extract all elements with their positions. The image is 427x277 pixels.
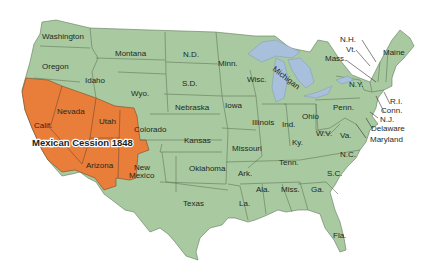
label-texas: Texas [183,199,204,208]
label-vt: Vt. [346,45,356,54]
label-nevada: Nevada [57,107,85,116]
label-ala: Ala. [256,185,270,194]
label-utah: Utah [99,117,116,126]
label-wyo: Wyo. [131,89,149,98]
label-sc: S.C. [327,169,343,178]
label-nd: N.D. [183,50,199,59]
label-nj: N.J. [380,115,394,124]
label-ind: Ind. [282,120,295,129]
label-conn: Conn. [381,106,402,115]
label-maryland: Maryland [370,135,403,144]
label-fla: Fla. [333,231,346,240]
label-wv: W.V. [316,129,332,138]
label-nebraska: Nebraska [175,103,210,112]
label-iowa: Iowa [225,101,242,110]
label-missouri: Missouri [232,144,262,153]
label-idaho: Idaho [85,76,106,85]
label-ohio: Ohio [302,112,319,121]
label-ny: N.Y. [349,80,364,89]
label-maine: Maine [383,48,405,57]
label-kansas: Kansas [184,136,211,145]
label-nc: N.C. [340,150,356,159]
label-sd: S.D. [182,79,198,88]
label-miss: Miss. [281,185,300,194]
label-ga: Ga. [311,185,324,194]
label-va: Va. [340,131,351,140]
label-oklahoma: Oklahoma [189,164,226,173]
label-ark: Ark. [238,169,252,178]
label-la: La. [239,199,250,208]
label-delaware: Delaware [371,124,405,133]
label-tenn: Tenn. [279,158,299,167]
us-map: Washington Oregon Idaho Montana Wyo. N.D… [0,0,427,277]
label-washington: Washington [42,32,84,41]
label-penn: Penn. [333,103,354,112]
label-calif: Calif. [34,121,52,130]
label-illinois: Illinois [252,118,274,127]
label-colorado: Colorado [134,125,167,134]
label-mass: Mass. [325,54,346,63]
label-nh: N.H. [340,35,356,44]
label-wisc: Wisc. [247,75,267,84]
label-minn: Minn. [218,59,238,68]
label-ky: Ky. [292,138,303,147]
label-montana: Montana [115,49,147,58]
label-arizona: Arizona [86,161,114,170]
label-ri: R.I. [390,97,402,106]
label-new-mexico-2: Mexico [129,171,155,180]
label-oregon: Oregon [42,62,69,71]
mexican-cession-title: Mexican Cession 1848 [32,137,133,148]
